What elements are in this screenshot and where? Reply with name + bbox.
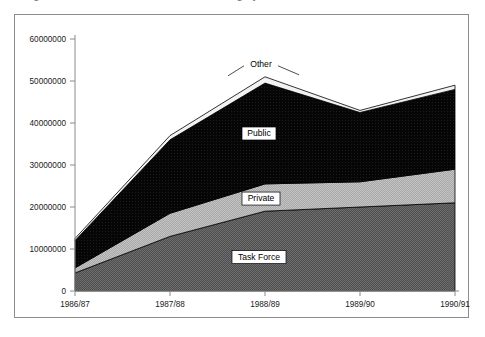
y-tick-label: 50000000 — [30, 77, 67, 86]
stacked-area-chart: 0100000002000000030000000400000005000000… — [15, 15, 470, 319]
series-annotation-leader-left — [228, 66, 244, 76]
x-tick-label: 1987/88 — [155, 300, 185, 309]
chart-plot-area: 0100000002000000030000000400000005000000… — [15, 15, 470, 319]
x-tick-label: 1986/87 — [60, 300, 90, 309]
series-annotation-leader-right — [278, 66, 299, 75]
y-axis-ticks: 0100000002000000030000000400000005000000… — [30, 35, 75, 296]
x-tick-label: 1988/89 — [250, 300, 280, 309]
x-tick-label: 1990/91 — [440, 300, 470, 309]
y-tick-label: 10000000 — [30, 245, 67, 254]
caption-remnant: Figure 3. Residential construction finan… — [0, 0, 485, 9]
series-annotation-task-force: Task Force — [238, 252, 280, 262]
y-tick-label: 40000000 — [30, 119, 67, 128]
y-tick-label: 0 — [61, 287, 66, 296]
x-axis-ticks: 1986/871987/881988/891989/901990/91 — [60, 291, 470, 309]
y-tick-label: 30000000 — [30, 161, 67, 170]
caption-remnant-text: Figure 3. Residential construction finan… — [24, 0, 340, 1]
series-annotation-other: Other — [250, 59, 272, 69]
y-tick-label: 60000000 — [30, 35, 67, 44]
x-tick-label: 1989/90 — [345, 300, 375, 309]
y-tick-label: 20000000 — [30, 203, 67, 212]
series-annotation-public: Public — [247, 128, 271, 138]
chart-frame: 0100000002000000030000000400000005000000… — [14, 14, 469, 318]
series-annotation-private: Private — [248, 193, 275, 203]
